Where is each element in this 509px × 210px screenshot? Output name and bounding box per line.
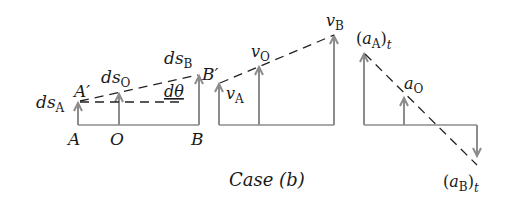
point-a-prime-label: A′ xyxy=(72,81,90,101)
ds-o-label: dsO xyxy=(101,67,131,90)
a-a-t-label: (aA)t xyxy=(356,29,392,52)
displacement-panel: A O B A′ B′ dsA dsO dsB dθ xyxy=(36,48,218,149)
point-b-label: B xyxy=(190,129,204,149)
rigid-body-motion-diagram: A O B A′ B′ dsA dsO dsB dθ vA vO vB (aA)… xyxy=(0,0,509,210)
ds-a-label: dsA xyxy=(36,92,65,115)
a-o-label: aO xyxy=(404,74,424,96)
acceleration-panel: (aA)t aO (aB)t xyxy=(356,29,481,195)
point-o-label: O xyxy=(110,129,124,149)
v-a-label: vA xyxy=(226,84,244,106)
acceleration-dashed-line xyxy=(365,54,477,165)
a-b-t-label: (aB)t xyxy=(443,172,479,195)
figure-caption: Case (b) xyxy=(229,169,305,190)
point-a-label: A xyxy=(66,129,80,149)
v-b-label: vB xyxy=(326,11,344,33)
v-o-label: vO xyxy=(251,42,270,64)
d-theta-label: dθ xyxy=(164,82,184,101)
velocity-dashed-line xyxy=(220,35,334,83)
point-b-prime-label: B′ xyxy=(201,64,218,84)
ds-b-label: dsB xyxy=(164,48,193,71)
velocity-panel: vA vO vB xyxy=(215,11,344,125)
